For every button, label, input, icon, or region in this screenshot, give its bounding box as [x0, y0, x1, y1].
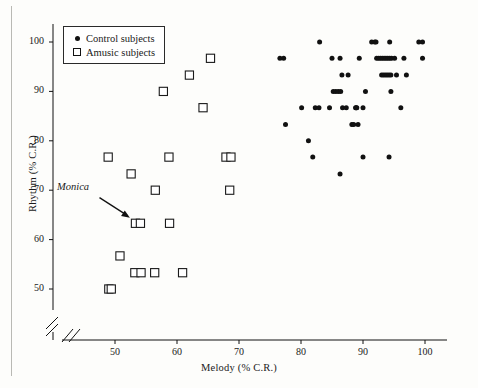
- data-point-control: [388, 89, 393, 94]
- x-axis-title: Melody (% C.R.): [0, 362, 478, 373]
- data-point-control: [317, 40, 322, 45]
- data-point-amusic: [151, 269, 159, 277]
- data-point-control: [281, 56, 286, 61]
- data-point-amusic: [136, 219, 144, 227]
- data-point-control: [338, 56, 343, 61]
- data-point-amusic: [227, 153, 235, 161]
- data-point-control: [338, 171, 343, 176]
- data-point-control: [404, 73, 409, 78]
- data-point-control: [420, 56, 425, 61]
- open-square-icon: [70, 48, 84, 56]
- data-point-amusic: [165, 219, 173, 227]
- data-point-control: [339, 73, 344, 78]
- figure-scatter-melody-rhythm: 5060708090100 5060708090100 Rhythm (% C.…: [0, 0, 478, 388]
- data-point-amusic: [199, 104, 207, 112]
- data-point-amusic: [116, 252, 124, 260]
- y-tick-label: 90: [16, 84, 44, 95]
- data-point-control: [374, 40, 379, 45]
- data-point-control: [346, 73, 351, 78]
- data-point-control: [327, 105, 332, 110]
- data-point-control: [357, 56, 362, 61]
- data-point-amusic: [178, 269, 186, 277]
- data-point-amusic: [104, 153, 112, 161]
- data-point-amusic: [185, 71, 193, 79]
- data-point-control: [356, 122, 361, 127]
- data-point-control: [420, 40, 425, 45]
- data-point-control: [306, 138, 311, 143]
- legend-label-amusic: Amusic subjects: [84, 47, 155, 58]
- y-tick-label: 50: [16, 282, 44, 293]
- data-point-control: [338, 89, 343, 94]
- data-point-amusic: [206, 54, 214, 62]
- annotation-arrow: [100, 198, 130, 218]
- data-point-control: [387, 155, 392, 160]
- data-point-control: [330, 56, 335, 61]
- axes-group: [46, 24, 447, 344]
- x-tick-label: 60: [162, 346, 192, 357]
- data-point-control: [398, 105, 403, 110]
- data-point-control: [388, 73, 393, 78]
- data-point-control: [392, 56, 397, 61]
- filled-circle-icon: [70, 36, 84, 41]
- y-tick-label: 100: [16, 35, 44, 46]
- data-point-control: [394, 73, 399, 78]
- data-point-amusic: [127, 170, 135, 178]
- data-point-amusic: [159, 87, 167, 95]
- data-point-control: [351, 122, 356, 127]
- data-point-amusic: [226, 186, 234, 194]
- legend-label-control: Control subjects: [84, 33, 155, 44]
- annotation-label-monica: Monica: [57, 181, 89, 192]
- data-point-control: [387, 40, 392, 45]
- data-point-amusic: [107, 285, 115, 293]
- data-point-amusic: [151, 186, 159, 194]
- data-point-control: [401, 56, 406, 61]
- legend-entry-control: Control subjects: [70, 31, 155, 45]
- x-tick-label: 100: [410, 346, 440, 357]
- x-tick-label: 50: [100, 346, 130, 357]
- data-point-control: [361, 105, 366, 110]
- data-point-control: [310, 155, 315, 160]
- series-amusic-subjects: [104, 54, 235, 293]
- data-point-control: [361, 155, 366, 160]
- x-tick-label: 70: [224, 346, 254, 357]
- y-axis-title: Rhythm (% C.R.): [27, 114, 38, 234]
- data-point-control: [344, 105, 349, 110]
- legend-entry-amusic: Amusic subjects: [70, 45, 155, 59]
- data-point-control: [316, 105, 321, 110]
- y-tick-label: 60: [16, 233, 44, 244]
- x-tick-label: 80: [286, 346, 316, 357]
- data-point-control: [354, 105, 359, 110]
- data-point-control: [283, 122, 288, 127]
- data-point-amusic: [165, 153, 173, 161]
- data-point-control: [299, 105, 304, 110]
- x-tick-label: 90: [348, 346, 378, 357]
- data-point-control: [363, 89, 368, 94]
- legend: Control subjects Amusic subjects: [63, 26, 165, 64]
- series-control-subjects: [277, 40, 425, 177]
- data-point-amusic: [137, 269, 145, 277]
